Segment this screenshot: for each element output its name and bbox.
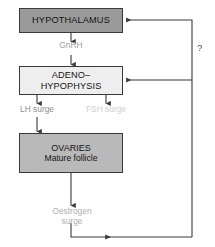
diagram-canvas: HYPOTHALAMUS ADENO– HYPOPHYSIS OVARIES M… bbox=[0, 0, 215, 247]
node-ovaries[interactable]: OVARIES Mature follicle bbox=[19, 133, 123, 173]
edge-label-gnrh: GnRH bbox=[38, 41, 104, 51]
node-adenohypophysis-label-line2: HYPOPHYSIS bbox=[41, 81, 102, 91]
node-hypothalamus[interactable]: HYPOTHALAMUS bbox=[19, 8, 123, 33]
connector-feedback-to-hypothalamus bbox=[127, 20, 193, 237]
arrowhead-bottom-feedback bbox=[105, 235, 111, 240]
edge-label-lh-surge: LH surge bbox=[7, 105, 67, 115]
edge-label-oestrogen-surge: Oestrogen surge bbox=[41, 207, 103, 226]
annotation-question-mark: ? bbox=[197, 42, 202, 53]
node-adenohypophysis-label-line1: ADENO– bbox=[52, 70, 90, 80]
edge-label-fsh-surge: FSH surge bbox=[75, 105, 137, 115]
node-ovaries-label-line2: Mature follicle bbox=[44, 154, 97, 164]
edge-label-oestrogen-surge-line2: surge bbox=[41, 217, 103, 227]
node-ovaries-label-line1: OVARIES bbox=[51, 143, 90, 153]
node-hypothalamus-label: HYPOTHALAMUS bbox=[32, 15, 110, 25]
node-adenohypophysis[interactable]: ADENO– HYPOPHYSIS bbox=[19, 66, 123, 95]
diagram-connector-layer bbox=[0, 0, 215, 247]
